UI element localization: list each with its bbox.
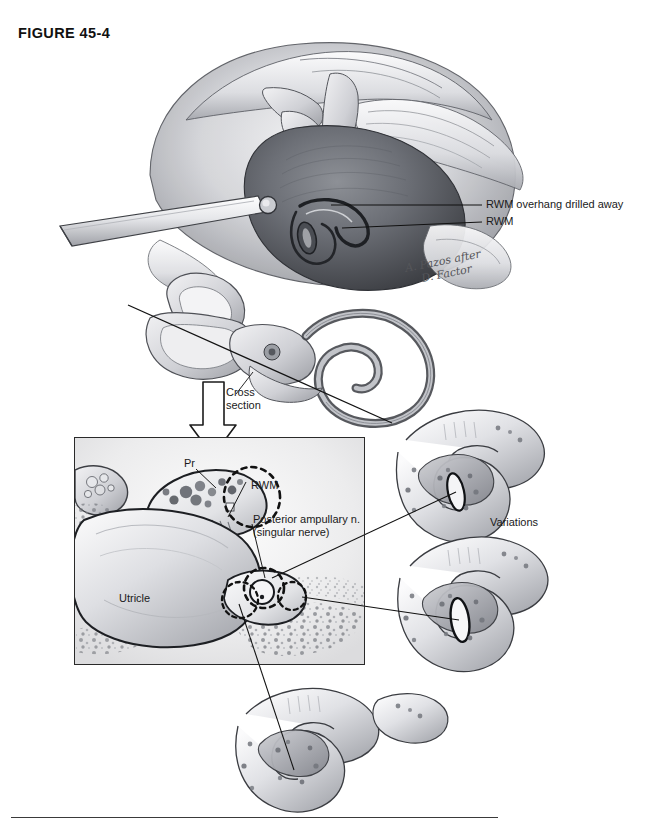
- label-cross-section-line1: Cross: [226, 386, 255, 399]
- label-posterior-ampullary-nerve: Posterior ampullary n.: [253, 513, 360, 526]
- label-pr: Pr: [184, 457, 195, 470]
- variation-2: [398, 537, 548, 672]
- labyrinth-view: [146, 273, 431, 423]
- callout-rwm-overhang: RWM overhang drilled away: [486, 198, 623, 211]
- illustration-artwork: [0, 0, 650, 838]
- callout-rwm: RWM: [486, 215, 513, 228]
- cochlea: [306, 313, 431, 423]
- artist-signature: A. Pazos after D. Factor: [404, 247, 484, 287]
- label-variations: Variations: [490, 516, 538, 529]
- label-cross-section-line2: section: [226, 399, 261, 412]
- top-callout-leaders: [331, 205, 482, 228]
- footer-rule: [11, 817, 498, 818]
- cross-section-inset-frame: [74, 437, 365, 665]
- label-utricle: Utricle: [119, 592, 150, 605]
- variation-3: [236, 688, 448, 811]
- figure-page: FIGURE 45-4: [0, 0, 650, 838]
- label-singular-nerve: (singular nerve): [253, 526, 329, 539]
- figure-label: FIGURE 45-4: [18, 25, 110, 41]
- label-rwm-inset: RWM: [251, 479, 278, 492]
- drill-instrument: [60, 196, 277, 246]
